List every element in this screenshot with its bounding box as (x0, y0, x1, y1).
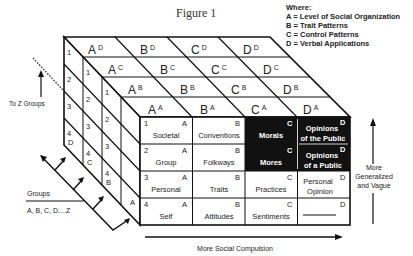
svg-text:Practices: Practices (256, 185, 287, 194)
svg-text:C: C (287, 173, 293, 182)
svg-text:D: D (340, 200, 346, 209)
svg-text:Opinions: Opinions (306, 151, 339, 160)
svg-text:3: 3 (105, 142, 109, 151)
arrow-up-icon (370, 118, 376, 126)
svg-text:3: 3 (144, 173, 148, 182)
svg-text:of a Public: of a Public (304, 161, 342, 170)
z-groups-indicator: To Z Groups (9, 58, 63, 108)
svg-text:B: B (235, 173, 240, 182)
svg-text:C: C (87, 158, 93, 167)
svg-text:C: C (287, 119, 293, 128)
svg-text:Sentiments: Sentiments (252, 212, 290, 221)
svg-text:Societal: Societal (153, 131, 180, 140)
svg-text:Self: Self (160, 212, 174, 221)
svg-text:Traits: Traits (210, 185, 229, 194)
svg-text:of the Public: of the Public (301, 134, 346, 143)
horizontal-axis: More Social Compulsion (145, 234, 343, 253)
vertical-axis: More Generalized and Vague (355, 118, 393, 224)
svg-text:Attitudes: Attitudes (204, 212, 233, 221)
svg-text:Personal: Personal (303, 177, 333, 186)
svg-text:4: 4 (86, 149, 90, 158)
legend-item-b: B = Trait Patterns (286, 21, 348, 30)
svg-text:B: B (235, 146, 240, 155)
svg-text:Personal: Personal (151, 185, 181, 194)
svg-text:A: A (182, 200, 187, 209)
arrow-right-icon (335, 234, 343, 240)
svg-text:Mores: Mores (260, 158, 282, 167)
svg-text:B: B (235, 119, 240, 128)
svg-text:Conventions: Conventions (198, 131, 240, 140)
svg-text:B: B (235, 200, 240, 209)
svg-text:3: 3 (86, 122, 90, 131)
legend-item-d: D = Verbal Applications (286, 39, 369, 48)
horizontal-axis-label: More Social Compulsion (197, 245, 273, 253)
svg-text:4: 4 (105, 169, 109, 178)
svg-text:2: 2 (105, 115, 109, 124)
svg-text:Morals: Morals (259, 131, 283, 140)
social-organization-cube-diagram: Figure 1 Where: A = Level of Social Orga… (0, 0, 413, 256)
svg-text:4: 4 (67, 129, 71, 138)
z-dashed-line (33, 58, 63, 90)
svg-text:1: 1 (86, 68, 90, 77)
svg-text:C: C (287, 146, 293, 155)
svg-text:1: 1 (144, 119, 148, 128)
svg-text:D: D (68, 138, 74, 147)
z-groups-label: To Z Groups (9, 100, 46, 108)
svg-text:D: D (340, 118, 346, 127)
figure-title: Figure 1 (176, 6, 216, 20)
svg-text:2: 2 (86, 95, 90, 104)
legend-item-c: C = Control Patterns (286, 30, 359, 39)
vertical-label-line1: More (366, 164, 382, 171)
svg-text:Group: Group (156, 158, 177, 167)
vertical-label-line3: and Vague (357, 182, 390, 190)
svg-text:Opinion: Opinion (307, 187, 333, 196)
svg-text:3: 3 (67, 102, 71, 111)
svg-text:C: C (287, 200, 293, 209)
arrow-up-icon (38, 70, 44, 77)
legend: Where: A = Level of Social Organization … (286, 3, 401, 48)
svg-text:4: 4 (144, 200, 148, 209)
svg-text:1: 1 (105, 88, 109, 97)
svg-text:2: 2 (67, 75, 71, 84)
arrow-upright-icon (124, 218, 130, 224)
legend-heading: Where: (286, 3, 311, 12)
svg-text:A: A (130, 198, 135, 207)
svg-text:B: B (106, 178, 111, 187)
svg-text:D: D (340, 145, 346, 154)
vertical-label-line2: Generalized (355, 173, 393, 180)
svg-text:D: D (340, 173, 346, 182)
groups-label: Groups (27, 190, 50, 198)
svg-text:2: 2 (144, 146, 148, 155)
svg-text:Folkways: Folkways (203, 158, 235, 167)
svg-text:A: A (182, 173, 187, 182)
groups-values: A, B, C, D....Z (27, 207, 71, 214)
svg-text:A: A (182, 146, 187, 155)
svg-text:Opinions: Opinions (306, 124, 339, 133)
svg-text:1: 1 (67, 48, 71, 57)
legend-item-a: A = Level of Social Organization (286, 12, 401, 21)
svg-text:A: A (182, 119, 187, 128)
